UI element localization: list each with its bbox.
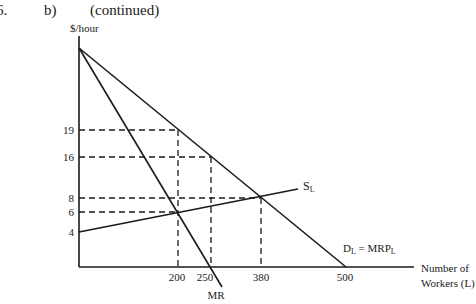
y-tick-16: 16 [63,151,75,163]
x-axis-label-line1: Number of [421,262,469,274]
mr-label: MR [207,289,225,301]
x-tick-200: 200 [169,271,186,283]
y-tick-8: 8 [69,192,75,204]
y-tick-labels: 19 16 8 6 4 [63,124,75,238]
x-tick-500: 500 [337,271,354,283]
y-tick-4: 4 [69,226,75,238]
x-tick-380: 380 [253,271,270,283]
mr-curve [79,48,222,287]
demand-label: DL = MRPL [343,242,396,256]
y-tick-19: 19 [63,124,75,136]
y-tick-6: 6 [69,206,75,218]
x-tick-labels: 200 250 380 500 [169,271,354,283]
y-axis-label: $/hour [70,22,99,34]
supply-curve [79,189,298,232]
labor-market-diagram: $/hour 19 16 8 6 4 200 250 380 500 SL DL… [0,0,476,304]
x-tick-250: 250 [197,271,214,283]
x-axis-label-line2: Workers (L) [421,277,475,290]
reference-lines [79,130,261,267]
supply-label: SL [303,179,315,194]
